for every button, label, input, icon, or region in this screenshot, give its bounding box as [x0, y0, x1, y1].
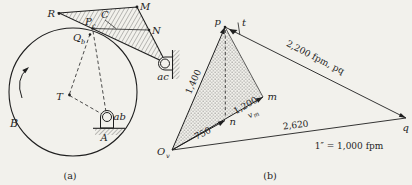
label-ac: ac: [157, 71, 169, 82]
point-M: [136, 6, 139, 9]
point-p: [224, 26, 227, 29]
mechanism-velocity-figure: R M N P c C Q b T B ab A ac (a): [0, 0, 412, 185]
label-C: C: [101, 9, 109, 20]
label-M: M: [139, 1, 151, 12]
point-T: [68, 94, 71, 97]
label-R: R: [46, 8, 55, 19]
label-Ov-sub: v: [166, 152, 170, 160]
point-Qb: [89, 33, 92, 36]
label-Q-main: Q: [73, 32, 81, 43]
caption-a: (a): [63, 170, 76, 181]
figure-canvas: R M N P c C Q b T B ab A ac (a): [0, 0, 412, 185]
caption-b: (b): [263, 170, 277, 181]
label-A: A: [99, 132, 107, 143]
pin-circle-ab: [103, 113, 112, 122]
label-Q-sub: b: [81, 38, 85, 46]
ground-hatch-A: [95, 129, 124, 135]
wall-hatch-ac: [173, 50, 180, 79]
label-N: N: [151, 25, 162, 36]
point-R: [58, 12, 61, 15]
point-N: [148, 29, 151, 32]
label-q: q: [403, 122, 409, 133]
label-m: m: [268, 91, 277, 102]
label-Ov-main: O: [157, 146, 165, 157]
label-p: p: [215, 16, 222, 27]
label-n: n: [230, 116, 236, 127]
label-P-sub: c: [92, 22, 96, 30]
label-ab: ab: [114, 111, 126, 122]
label-P-main: P: [84, 16, 92, 27]
pin-circle-ac: [161, 59, 170, 68]
label-B: B: [9, 117, 18, 130]
scale-note: 1″ = 1,000 fpm: [315, 141, 384, 151]
